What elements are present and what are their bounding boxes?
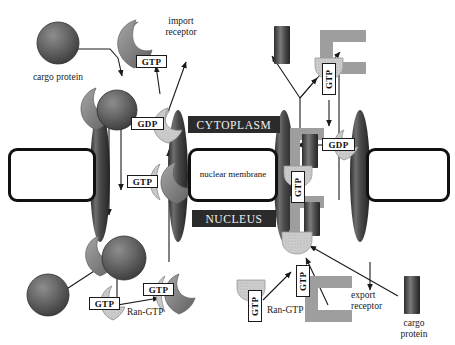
label-cargo-protein-line2: protein xyxy=(390,329,438,340)
export-receptor-legend xyxy=(305,276,352,322)
nuclear-membrane-label: nuclear membrane xyxy=(191,169,275,179)
label-cargo-protein-line1: cargo xyxy=(390,318,438,329)
arrow-export-split-ran xyxy=(300,78,317,98)
gtp-tag-export-pore: GTP xyxy=(291,171,305,203)
gtp-tag-export-top: GTP xyxy=(322,63,336,95)
arrow-cargo-to-complex-r xyxy=(310,246,398,296)
label-import-receptor: import receptor xyxy=(150,16,212,37)
gtp-tag-import-top: GTP xyxy=(136,55,167,68)
gtp-tag-import-pore: GTP xyxy=(127,175,158,188)
cytoplasm-banner: CYTOPLASM xyxy=(188,116,280,133)
nucleus-label: NUCLEUS xyxy=(205,213,262,225)
label-ran-gtp-bottom-right: Ran-GTP xyxy=(267,305,303,316)
label-ran-gtp-bottom-left: Ran-GTP xyxy=(127,307,163,318)
gdp-tag-export-right: GDP xyxy=(322,138,355,151)
cargo-protein-sphere-topleft xyxy=(37,22,79,64)
import-complex-nuc-cargo xyxy=(102,236,146,280)
gtp-tag-ran-bottom: GTP xyxy=(248,290,262,322)
arrow-gdp-recycle-up xyxy=(168,62,186,112)
label-cargo-protein-bottom-right: cargo protein xyxy=(390,318,438,339)
label-import-receptor-line1: import xyxy=(150,16,212,27)
nucleus-banner: NUCLEUS xyxy=(192,210,276,227)
label-import-receptor-line2: receptor xyxy=(150,27,212,38)
label-export-receptor-line2: receptor xyxy=(351,301,407,312)
gdp-tag-import-left: GDP xyxy=(131,117,164,130)
nuclear-membrane-center: nuclear membrane xyxy=(188,148,278,202)
arrow-gtp-import-up xyxy=(156,66,160,94)
label-cargo-protein-topleft: cargo protein xyxy=(16,72,100,83)
gtp-tag-ran-left-2: GTP xyxy=(143,283,174,296)
label-export-receptor: export receptor xyxy=(351,290,407,311)
gtp-tag-export-nucleus: GTP xyxy=(296,265,310,297)
ran-gtp-cup-pore-nuc xyxy=(282,232,312,254)
arrow-rangtp-to-complex xyxy=(263,272,291,300)
arrow-receptor-to-complex xyxy=(118,58,122,76)
gtp-tag-ran-left: GTP xyxy=(89,297,120,310)
figure-canvas: nuclear membrane CYTOPLASM NUCLEUS GTP G… xyxy=(0,0,455,345)
nuclear-membrane-right xyxy=(366,148,450,202)
cargo-protein-sphere-nucleus xyxy=(27,274,69,316)
cargo-protein-rect-pore-cyto xyxy=(302,134,318,168)
cargo-protein-rect-cyto xyxy=(274,26,290,64)
label-export-receptor-line1: export xyxy=(351,290,407,301)
cargo-protein-rect-pore-nuc xyxy=(304,202,320,236)
nuclear-membrane-left xyxy=(8,148,96,202)
cytoplasm-label: CYTOPLASM xyxy=(197,119,272,131)
